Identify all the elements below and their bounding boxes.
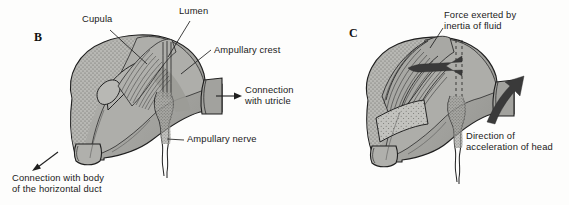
horizontal-duct-stub-c	[371, 146, 398, 167]
label-lumen: Lumen	[179, 5, 208, 16]
label-cupula: Cupula	[82, 13, 112, 24]
panel-letter-c: C	[349, 26, 358, 41]
panel-c-artwork	[366, 36, 524, 184]
label-connection-with-utricle: Connection with utricle	[245, 84, 294, 106]
label-connection-horizontal-duct: Connection with body of the horizontal d…	[12, 172, 104, 194]
arrow-connection-horizontal-duct	[32, 152, 58, 171]
anatomy-figure: B C Cupula Lumen Ampullary crest Connect…	[0, 0, 569, 205]
panel-b-artwork	[70, 35, 222, 178]
horizontal-duct-stub-b	[75, 144, 102, 165]
label-ampullary-nerve: Ampullary nerve	[187, 133, 257, 144]
label-force-exerted-by-inertia: Force exerted by inertia of fluid	[444, 9, 516, 31]
panel-letter-b: B	[34, 30, 42, 45]
label-direction-of-acceleration: Direction of acceleration of head	[466, 130, 553, 152]
label-ampullary-crest: Ampullary crest	[214, 44, 280, 55]
